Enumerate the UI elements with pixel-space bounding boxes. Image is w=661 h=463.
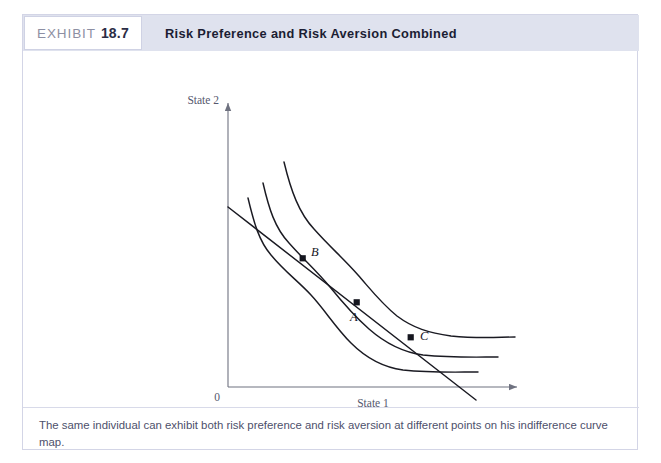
caption-divider bbox=[23, 407, 639, 408]
budget-line bbox=[228, 207, 476, 400]
indifference-curve-high bbox=[284, 162, 515, 338]
point-label-c: C bbox=[420, 329, 429, 343]
indifference-curve-mid bbox=[263, 183, 498, 357]
indifference-curve-chart: State 2 State 1 0 B A C bbox=[23, 51, 639, 407]
figure-area: State 2 State 1 0 B A C bbox=[23, 51, 639, 407]
exhibit-caption: The same individual can exhibit both ris… bbox=[39, 417, 625, 450]
point-marker-b bbox=[300, 255, 306, 261]
exhibit-badge: EXHIBIT 18.7 bbox=[24, 16, 142, 50]
point-label-a: A bbox=[349, 310, 358, 324]
exhibit-panel: EXHIBIT 18.7 Risk Preference and Risk Av… bbox=[22, 14, 638, 450]
y-axis-label: State 2 bbox=[187, 94, 219, 106]
indifference-curve-low bbox=[248, 198, 478, 372]
x-axis-label: State 1 bbox=[357, 397, 389, 407]
exhibit-title: Risk Preference and Risk Aversion Combin… bbox=[143, 15, 457, 51]
chart-annotations: B A C bbox=[300, 245, 429, 343]
origin-label: 0 bbox=[214, 391, 220, 403]
point-label-b: B bbox=[311, 245, 319, 259]
chart-axes bbox=[228, 103, 517, 387]
point-marker-c bbox=[408, 334, 414, 340]
exhibit-badge-word: EXHIBIT bbox=[37, 26, 96, 41]
exhibit-header: EXHIBIT 18.7 Risk Preference and Risk Av… bbox=[23, 15, 639, 51]
point-marker-a bbox=[354, 299, 360, 305]
exhibit-badge-number: 18.7 bbox=[101, 25, 129, 41]
